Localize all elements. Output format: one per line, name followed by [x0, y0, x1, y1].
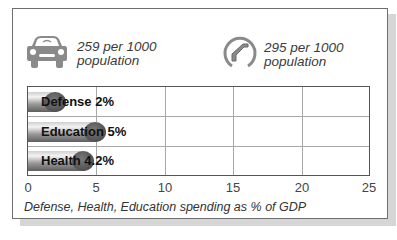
x-tick-15: 15 — [226, 180, 240, 195]
bar-label-education: Education 5% — [41, 122, 126, 142]
x-tick-10: 10 — [158, 180, 172, 195]
stat-cars-unit: population — [77, 54, 157, 68]
x-tick-20: 20 — [295, 180, 309, 195]
gridline-row-2 — [28, 146, 369, 147]
gridline-x-20 — [302, 87, 303, 175]
stat-phones-value: 295 per 1000 — [264, 41, 344, 55]
stat-cars-text: 259 per 1000 population — [77, 40, 157, 68]
stat-phones: 295 per 1000 population — [222, 35, 344, 75]
car-icon — [25, 35, 69, 73]
x-axis-caption: Defense, Health, Education spending as %… — [24, 200, 306, 214]
bar-label-defense: Defense 2% — [41, 92, 114, 112]
gridline-row-1 — [28, 116, 369, 117]
bar-chart-plot-area: Defense 2% Education 5% Health 4.2% — [27, 86, 370, 176]
phone-handset-icon — [222, 35, 258, 75]
stat-cars-value: 259 per 1000 — [77, 40, 157, 54]
stat-phones-text: 295 per 1000 population — [264, 41, 344, 69]
stat-cars: 259 per 1000 population — [25, 35, 157, 73]
bar-label-health: Health 4.2% — [41, 151, 114, 171]
gridline-x-10 — [165, 87, 166, 175]
x-tick-25: 25 — [362, 180, 376, 195]
x-tick-5: 5 — [92, 180, 99, 195]
x-tick-0: 0 — [24, 180, 31, 195]
gridline-x-15 — [233, 87, 234, 175]
stat-phones-unit: population — [264, 55, 344, 69]
